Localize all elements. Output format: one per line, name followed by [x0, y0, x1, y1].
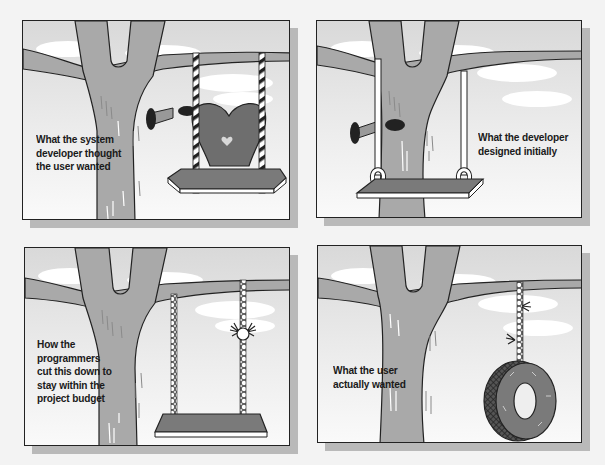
- panel-caption: What the developer designed initially: [478, 131, 568, 158]
- swing-illustration: [317, 21, 582, 218]
- panel-caption: How the programmers cut this down to sta…: [37, 338, 112, 406]
- panel-user-wanted: What the user actually wanted: [317, 245, 590, 451]
- tire-icon: [484, 361, 556, 441]
- panel-frame: What the system developer thought the us…: [22, 20, 290, 220]
- panel-frame: What the developer designed initially: [316, 20, 582, 218]
- panel-system-developer: What the system developer thought the us…: [22, 20, 298, 228]
- panel-caption: What the system developer thought the us…: [36, 133, 121, 174]
- panel-frame: How the programmers cut this down to sta…: [24, 247, 290, 446]
- tire-swing-illustration: [318, 246, 582, 443]
- panel-caption: What the user actually wanted: [333, 364, 406, 391]
- panel-frame: What the user actually wanted: [317, 245, 582, 443]
- panel-programmers-cut: How the programmers cut this down to sta…: [24, 247, 298, 454]
- panel-developer-design: What the developer designed initially: [316, 20, 590, 226]
- swing-illustration: [23, 21, 290, 220]
